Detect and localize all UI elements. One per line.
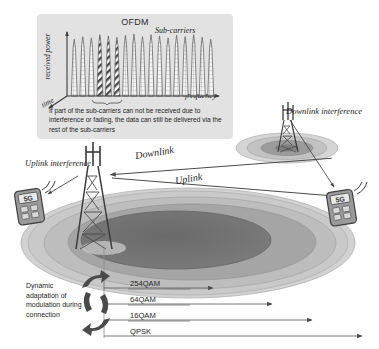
subcarrier-7 <box>122 35 128 96</box>
modulation-label-qpsk: QPSK <box>130 327 151 336</box>
subcarrier-2 <box>80 37 86 96</box>
diagram-canvas: 5G 5G <box>0 0 379 349</box>
subcarrier-6 <box>114 37 120 96</box>
subcarrier-11 <box>157 36 163 96</box>
modulation-label-254qam: 254QAM <box>130 279 160 288</box>
uplink-interference-arrow <box>48 176 78 194</box>
lost-subcarriers-brace <box>92 100 122 105</box>
subcarrier-9 <box>140 37 146 96</box>
subcarrier-8 <box>131 34 137 96</box>
subcarrier-14 <box>182 37 188 96</box>
subcarrier-1 <box>71 39 77 96</box>
downlink-arrow <box>110 158 332 174</box>
subcarrier-12 <box>165 38 171 96</box>
subcarrier-3 <box>88 38 94 96</box>
subcarrier-13 <box>174 35 180 96</box>
ofdm-chart <box>37 14 233 110</box>
uplink-interference-label: Uplink interference <box>25 158 87 169</box>
modulation-label-64qam: 64QAM <box>130 295 156 304</box>
downlink-interference-label: Downlink interference <box>286 106 356 117</box>
ofdm-inset-panel: OFDM Sub-carriers received power frequen… <box>37 14 233 139</box>
ofdm-subcarrier-bars <box>71 34 213 96</box>
subcarrier-5 <box>105 36 111 96</box>
subcarrier-15 <box>191 35 197 96</box>
dynamic-adaptation-text: Dynamic adaptation of modulation during … <box>26 281 82 319</box>
subcarrier-4 <box>97 35 103 96</box>
subcarrier-10 <box>148 35 154 96</box>
subcarrier-17 <box>208 39 214 96</box>
user-device-right: 5G <box>326 182 367 227</box>
subcarrier-16 <box>199 37 205 96</box>
ofdm-caption: If part of the sub-carriers can not be r… <box>49 106 225 134</box>
modulation-label-16qam: 16QAM <box>130 311 156 320</box>
